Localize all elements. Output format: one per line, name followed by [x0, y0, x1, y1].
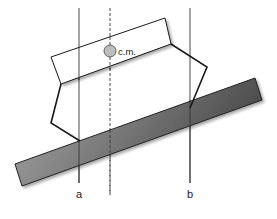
line-b-label: b — [187, 188, 193, 200]
inclined-ramp — [15, 78, 262, 186]
center-of-mass-label: c.m. — [118, 46, 136, 57]
center-of-mass-marker — [104, 45, 116, 57]
line-a-label: a — [76, 188, 83, 200]
left-leg — [51, 84, 80, 141]
diagram-canvas: c.m. a b — [0, 0, 277, 219]
